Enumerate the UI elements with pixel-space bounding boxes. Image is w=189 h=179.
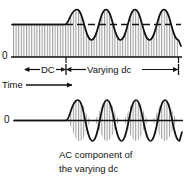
waveform-figure: 0 DC Varying dc Time 0 AC component of t… bbox=[0, 0, 189, 179]
varying-dc-segment-label: Varying dc bbox=[87, 65, 131, 75]
bottom-waveform-hatch-positive bbox=[60, 95, 185, 121]
zero-label-bottom: 0 bbox=[4, 115, 10, 125]
time-axis-label: Time bbox=[2, 80, 23, 90]
top-waveform-hatch-fill bbox=[10, 5, 185, 60]
bottom-chart-group bbox=[14, 95, 185, 144]
caption-line-1: AC component of bbox=[59, 150, 132, 160]
dc-segment-label: DC bbox=[41, 65, 55, 75]
caption-line-2: the varying dc bbox=[59, 164, 118, 174]
zero-label-top: 0 bbox=[2, 51, 8, 61]
